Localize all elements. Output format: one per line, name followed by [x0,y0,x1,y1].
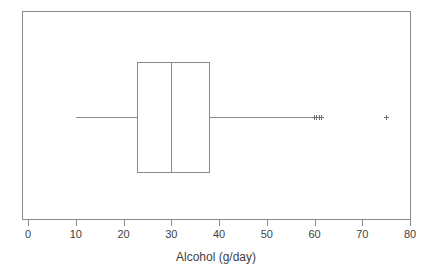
x-tick-label: 30 [165,228,177,240]
x-tick-label: 60 [308,228,320,240]
boxplot-chart: 01020304050607080 Alcohol (g/day) [0,0,434,271]
x-tick-label: 50 [261,228,273,240]
x-tick-label: 10 [70,228,82,240]
x-tick-label: 40 [213,228,225,240]
x-tick-label: 70 [356,228,368,240]
x-tick-label: 20 [117,228,129,240]
x-tick-label: 80 [404,228,416,240]
x-tick-label: 0 [25,228,31,240]
plot-canvas: 01020304050607080 Alcohol (g/day) [0,0,434,271]
x-axis-title: Alcohol (g/day) [176,250,256,264]
